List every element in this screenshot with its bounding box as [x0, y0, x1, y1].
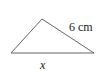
base-label-x: x [39, 58, 46, 72]
triangle-diagram: 6 cm x [0, 0, 98, 74]
side-label-6cm: 6 cm [69, 20, 93, 34]
